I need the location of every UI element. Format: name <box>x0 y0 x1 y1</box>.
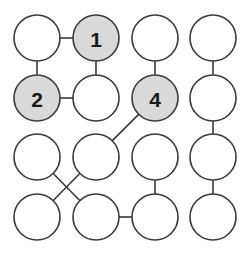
graph-node[interactable] <box>190 134 236 180</box>
graph-node[interactable] <box>190 194 236 240</box>
graph-node[interactable] <box>132 134 178 180</box>
graph-node[interactable] <box>14 15 60 61</box>
node-circle-plain[interactable] <box>190 75 236 121</box>
node-circle-plain[interactable] <box>132 134 178 180</box>
node-circle-plain[interactable] <box>190 134 236 180</box>
edges-layer <box>37 38 213 217</box>
graph-node-labeled[interactable]: 4 <box>132 75 178 121</box>
graph-node[interactable] <box>132 194 178 240</box>
node-circle-plain[interactable] <box>132 194 178 240</box>
graph-node[interactable] <box>73 194 119 240</box>
graph-diagram: 124 <box>0 0 250 263</box>
node-label: 1 <box>90 28 102 51</box>
graph-node[interactable] <box>14 134 60 180</box>
graph-node[interactable] <box>190 15 236 61</box>
graph-node[interactable] <box>73 134 119 180</box>
node-circle-plain[interactable] <box>73 134 119 180</box>
graph-node[interactable] <box>132 15 178 61</box>
graph-node-labeled[interactable]: 1 <box>73 15 119 61</box>
node-label: 4 <box>149 88 161 111</box>
graph-node[interactable] <box>190 75 236 121</box>
node-circle-plain[interactable] <box>190 15 236 61</box>
node-circle-plain[interactable] <box>14 134 60 180</box>
node-circle-plain[interactable] <box>14 15 60 61</box>
node-circle-plain[interactable] <box>73 194 119 240</box>
node-circle-plain[interactable] <box>132 15 178 61</box>
graph-node-labeled[interactable]: 2 <box>14 75 60 121</box>
graph-edge <box>112 114 139 141</box>
graph-node[interactable] <box>73 75 119 121</box>
graph-canvas: 124 <box>0 0 250 263</box>
graph-node[interactable] <box>14 194 60 240</box>
node-circle-plain[interactable] <box>14 194 60 240</box>
node-label: 2 <box>31 88 43 111</box>
node-circle-plain[interactable] <box>73 75 119 121</box>
node-circle-plain[interactable] <box>190 194 236 240</box>
